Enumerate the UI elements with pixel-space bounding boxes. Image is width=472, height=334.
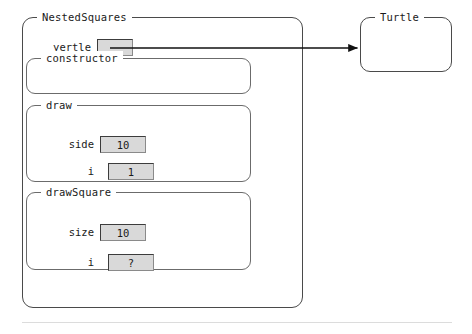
variable-row-draw-square-i: i ? <box>62 254 154 271</box>
variable-row-draw-side: side 10 <box>62 136 146 153</box>
variable-value-draw-square-i: ? <box>108 254 154 271</box>
frame-label-constructor: constructor <box>41 51 123 65</box>
frame-label-nested-squares: NestedSquares <box>37 10 132 24</box>
frame-label-draw: draw <box>41 98 77 112</box>
variable-row-draw-i: i 1 <box>62 163 154 180</box>
variable-name-draw-square-size: size <box>62 224 100 241</box>
variable-row-draw-square-size: size 10 <box>62 224 146 241</box>
variable-name-draw-i: i <box>62 163 100 180</box>
frame-constructor: constructor <box>26 58 251 94</box>
bottom-divider <box>22 322 452 323</box>
frame-turtle-object: Turtle <box>360 17 452 72</box>
frame-label-turtle: Turtle <box>375 10 424 24</box>
frame-label-draw-square: drawSquare <box>41 185 116 199</box>
variable-value-draw-i: 1 <box>108 163 154 180</box>
variable-name-draw-square-i: i <box>62 254 100 271</box>
variable-name-draw-side: side <box>62 136 100 153</box>
variable-value-draw-side: 10 <box>100 136 146 153</box>
memory-diagram: NestedSquares yertle constructor draw si… <box>0 0 472 334</box>
variable-value-draw-square-size: 10 <box>100 224 146 241</box>
